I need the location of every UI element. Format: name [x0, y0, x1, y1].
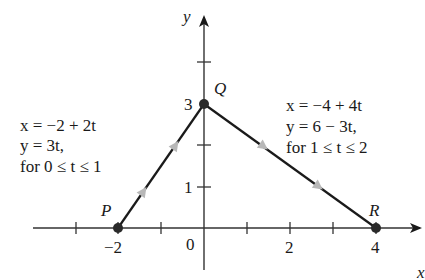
equation-line: x = −4 + 4t: [286, 96, 362, 115]
point-q-marker: [199, 99, 209, 109]
equation-line: x = −2 + 2t: [20, 116, 96, 135]
y-tick-label: 1: [184, 178, 193, 197]
point-q-label: Q: [214, 79, 226, 98]
point-r-label: R: [368, 201, 380, 220]
equation-line: for 1 ≤ t ≤ 2: [286, 138, 367, 157]
x-tick-label: −2: [104, 238, 122, 257]
point-r-marker: [371, 223, 381, 233]
y-axis-label: y: [181, 7, 191, 26]
equations-segment-pq: x = −2 + 2t y = 3t, for 0 ≤ t ≤ 1: [20, 116, 101, 176]
direction-arrow-icon: [169, 138, 183, 152]
x-tick-label: 2: [285, 238, 294, 257]
x-axis-label: x: [416, 263, 425, 280]
parametric-path-diagram: y x −2 0 2 4 1 3 P Q R x = −2 + 2t y = 3…: [0, 0, 425, 280]
y-axis: [197, 17, 211, 270]
equation-line: y = 6 − 3t,: [286, 117, 357, 136]
equation-line: y = 3t,: [20, 136, 64, 155]
equation-line: for 0 ≤ t ≤ 1: [20, 157, 101, 176]
x-axis: [33, 222, 420, 234]
point-p-label: P: [100, 201, 111, 220]
x-tick-label: 4: [371, 238, 380, 257]
x-tick-label: 0: [186, 235, 195, 254]
segment-p-to-q: [118, 104, 204, 228]
equations-segment-qr: x = −4 + 4t y = 6 − 3t, for 1 ≤ t ≤ 2: [286, 96, 367, 157]
direction-arrow-icon: [137, 184, 151, 198]
y-tick-label: 3: [184, 95, 193, 114]
point-p-marker: [113, 223, 123, 233]
